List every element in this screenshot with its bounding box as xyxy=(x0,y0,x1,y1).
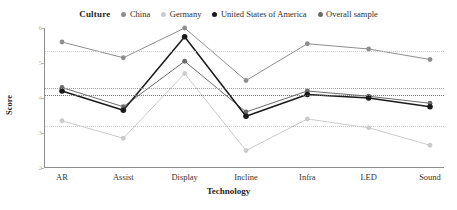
y-axis-tick-label: 6 xyxy=(28,24,42,32)
plot-area: 23456 xyxy=(44,28,444,168)
chart-container: Culture ChinaGermanyUnited States of Ame… xyxy=(0,0,457,210)
legend-item-label: United States of America xyxy=(221,9,307,19)
reference-line xyxy=(45,88,444,89)
data-point[interactable] xyxy=(182,71,187,76)
y-axis-tick-label: 4 xyxy=(28,94,42,102)
legend-dot-overall-icon xyxy=(318,12,323,17)
data-point[interactable] xyxy=(60,118,65,123)
legend-item[interactable]: Overall sample xyxy=(318,9,378,19)
x-axis-tick-label: AR xyxy=(56,172,68,182)
y-axis-tick-mark xyxy=(41,28,44,29)
legend-item-label: Germany xyxy=(170,9,202,19)
data-point[interactable] xyxy=(121,136,126,141)
legend-item-label: China xyxy=(130,9,150,19)
data-point[interactable] xyxy=(305,117,310,122)
data-point[interactable] xyxy=(182,26,187,31)
y-axis-tick-label: 3 xyxy=(28,129,42,137)
x-axis-tick-label: Assist xyxy=(113,172,134,182)
legend-dot-usa-icon xyxy=(212,12,217,17)
data-point[interactable] xyxy=(244,78,249,83)
y-axis-title: Score xyxy=(2,0,16,210)
series-line xyxy=(62,28,430,81)
chart-legend: Culture ChinaGermanyUnited States of Ame… xyxy=(0,6,457,22)
data-point[interactable] xyxy=(121,55,126,60)
data-point[interactable] xyxy=(243,113,249,119)
legend-item-label: Overall sample xyxy=(326,9,378,19)
data-point[interactable] xyxy=(428,57,433,62)
data-point[interactable] xyxy=(366,95,372,101)
y-axis-tick-mark xyxy=(41,133,44,134)
y-axis-tick-label: 5 xyxy=(28,59,42,67)
y-axis-tick-mark xyxy=(41,63,44,64)
data-point[interactable] xyxy=(182,34,188,40)
x-axis-tick-label: LED xyxy=(360,172,377,182)
series-china xyxy=(60,26,433,83)
legend-title: Culture xyxy=(79,9,110,19)
x-axis-tick-label: Display xyxy=(171,172,197,182)
x-axis-tick-label: Sound xyxy=(419,172,441,182)
legend-item[interactable]: United States of America xyxy=(212,9,306,19)
x-axis-title: Technology xyxy=(0,186,457,196)
data-point[interactable] xyxy=(59,88,65,94)
legend-dot-china-icon xyxy=(121,12,126,17)
data-point[interactable] xyxy=(60,40,65,45)
legend-dot-germany-icon xyxy=(161,12,166,17)
x-axis-tick-label: Incline xyxy=(234,172,258,182)
data-point[interactable] xyxy=(305,41,310,46)
data-point[interactable] xyxy=(121,107,127,113)
y-axis-tick-mark xyxy=(41,168,44,169)
legend-item[interactable]: Germany xyxy=(161,9,201,19)
data-point[interactable] xyxy=(428,143,433,148)
reference-line xyxy=(45,95,444,96)
series-layer xyxy=(44,28,444,168)
y-axis-tick-label: 2 xyxy=(28,164,42,172)
series-united-states-of-america xyxy=(59,34,433,119)
data-point[interactable] xyxy=(427,104,433,110)
data-point[interactable] xyxy=(244,148,249,153)
reference-line xyxy=(45,126,444,127)
y-axis-title-label: Score xyxy=(4,95,14,115)
x-axis-tick-labels: ARAssistDisplayInclineInfraLEDSound xyxy=(44,172,444,186)
x-axis-tick-label: Infra xyxy=(299,172,316,182)
reference-line xyxy=(45,51,444,52)
series-line xyxy=(62,37,430,116)
data-point[interactable] xyxy=(182,59,187,64)
y-axis-tick-mark xyxy=(41,98,44,99)
legend-item[interactable]: China xyxy=(121,9,150,19)
